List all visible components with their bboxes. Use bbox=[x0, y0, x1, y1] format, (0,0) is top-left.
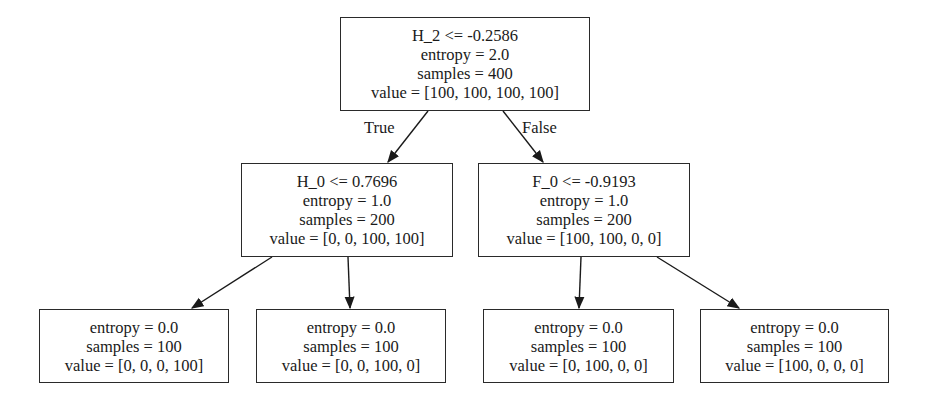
entropy-text: entropy = 0.0 bbox=[750, 318, 839, 337]
edge-left-leaf2 bbox=[348, 257, 350, 308]
samples-text: samples = 400 bbox=[417, 64, 512, 83]
value-text: value = [0, 0, 100, 0] bbox=[282, 356, 421, 375]
leaf-node-4: entropy = 0.0 samples = 100 value = [100… bbox=[700, 309, 889, 383]
entropy-text: entropy = 0.0 bbox=[534, 318, 623, 337]
split-condition: F_0 <= -0.9193 bbox=[532, 172, 635, 191]
value-text: value = [0, 100, 0, 0] bbox=[509, 356, 648, 375]
samples-text: samples = 200 bbox=[299, 210, 394, 229]
entropy-text: entropy = 2.0 bbox=[421, 45, 510, 64]
entropy-text: entropy = 1.0 bbox=[303, 191, 392, 210]
samples-text: samples = 100 bbox=[747, 337, 842, 356]
value-text: value = [100, 0, 0, 0] bbox=[725, 356, 864, 375]
edge-label-true: True bbox=[364, 118, 395, 138]
edge-right-leaf3 bbox=[579, 257, 581, 308]
leaf-node-2: entropy = 0.0 samples = 100 value = [0, … bbox=[256, 309, 446, 383]
entropy-text: entropy = 1.0 bbox=[540, 191, 629, 210]
samples-text: samples = 100 bbox=[531, 337, 626, 356]
leaf-node-3: entropy = 0.0 samples = 100 value = [0, … bbox=[483, 309, 674, 383]
edge-left-leaf1 bbox=[192, 257, 272, 308]
value-text: value = [100, 100, 0, 0] bbox=[506, 229, 661, 248]
value-text: value = [0, 0, 0, 100] bbox=[65, 356, 204, 375]
samples-text: samples = 100 bbox=[86, 337, 181, 356]
value-text: value = [100, 100, 100, 100] bbox=[371, 83, 559, 102]
left-split-node: H_0 <= 0.7696 entropy = 1.0 samples = 20… bbox=[241, 163, 453, 257]
right-split-node: F_0 <= -0.9193 entropy = 1.0 samples = 2… bbox=[478, 163, 690, 257]
edge-right-leaf4 bbox=[657, 257, 739, 308]
split-condition: H_0 <= 0.7696 bbox=[297, 172, 398, 191]
entropy-text: entropy = 0.0 bbox=[90, 318, 179, 337]
entropy-text: entropy = 0.0 bbox=[307, 318, 396, 337]
samples-text: samples = 100 bbox=[303, 337, 398, 356]
split-condition: H_2 <= -0.2586 bbox=[412, 26, 518, 45]
samples-text: samples = 200 bbox=[536, 210, 631, 229]
leaf-node-1: entropy = 0.0 samples = 100 value = [0, … bbox=[39, 309, 229, 383]
root-node: H_2 <= -0.2586 entropy = 2.0 samples = 4… bbox=[340, 17, 590, 111]
value-text: value = [0, 0, 100, 100] bbox=[269, 229, 424, 248]
edge-label-false: False bbox=[522, 118, 557, 138]
